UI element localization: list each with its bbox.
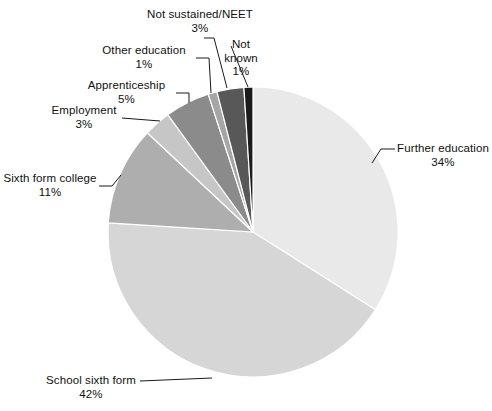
slice-label-employment: Employment 3%	[48, 104, 120, 131]
pie-slices-group	[108, 87, 398, 377]
slice-label-percent: 3%	[139, 22, 261, 36]
slice-label-percent: 11%	[2, 186, 98, 200]
slice-label-school-sixth-form: School sixth form 42%	[44, 374, 138, 401]
slice-label-not-known: Not known 1%	[213, 38, 269, 79]
slice-label-percent: 42%	[44, 388, 138, 402]
pie-chart-figure: Not sustained/NEET 3% Not known 1% Other…	[0, 0, 492, 411]
leader-line-employment	[122, 118, 160, 121]
slice-label-percent: 3%	[48, 118, 120, 132]
slice-label-percent: 1%	[213, 65, 269, 79]
slice-label-percent: 1%	[94, 58, 194, 72]
leader-line-other-education	[196, 58, 211, 93]
slice-label-name: Other education	[94, 44, 194, 58]
leader-line-apprenticeship	[176, 93, 189, 103]
slice-label-sixth-form-college: Sixth form college 11%	[2, 172, 98, 199]
slice-label-name: School sixth form	[44, 374, 138, 388]
slice-label-name-line1: Not	[213, 38, 269, 52]
slice-label-percent: 34%	[396, 156, 490, 170]
slice-label-other-education: Other education 1%	[94, 44, 194, 71]
leader-line-school-sixth-form	[140, 378, 212, 381]
slice-label-name-line2: known	[213, 52, 269, 66]
slice-label-not-sustained-neet: Not sustained/NEET 3%	[139, 8, 261, 35]
slice-label-name: Sixth form college	[2, 172, 98, 186]
slice-label-name: Not sustained/NEET	[139, 8, 261, 22]
slice-label-name: Further education	[396, 142, 490, 156]
slice-label-name: Employment	[48, 104, 120, 118]
slice-label-name: Apprenticeship	[79, 79, 174, 93]
slice-label-further-education: Further education 34%	[396, 142, 490, 169]
slice-label-apprenticeship: Apprenticeship 5%	[79, 79, 174, 106]
